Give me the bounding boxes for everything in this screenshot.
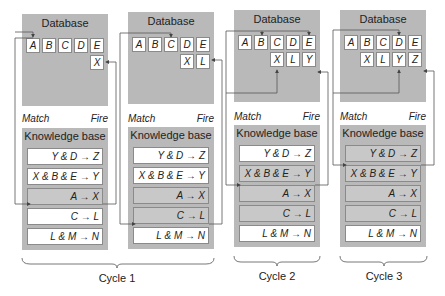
brace-cycle1	[22, 258, 214, 268]
cycle-label: Cycle 3	[354, 270, 414, 282]
connector-lines	[0, 0, 445, 296]
match-arrow	[333, 30, 399, 35]
fire-arrow	[103, 62, 116, 204]
brace-cycle3	[340, 256, 427, 266]
match-arrow-to-a	[15, 32, 33, 37]
match-arrow	[15, 38, 33, 204]
match-arrow	[262, 31, 309, 35]
brace-cycle2	[234, 256, 320, 266]
cycle-label: Cycle 2	[247, 270, 307, 282]
fire-arrow	[209, 60, 222, 224]
fire-arrow	[421, 71, 434, 165]
match-arrow	[120, 33, 171, 224]
cycle-label: Cycle 1	[87, 272, 147, 284]
fire-arrow	[315, 72, 328, 185]
